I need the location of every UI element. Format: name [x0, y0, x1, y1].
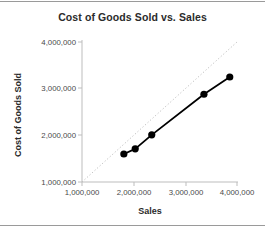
x-axis-ticks — [82, 182, 237, 186]
data-point-marker — [120, 150, 127, 157]
chart-screenshot: Cost of Goods Sold vs. Sales Cost of Goo… — [0, 0, 265, 227]
plot-canvas — [0, 0, 265, 227]
reference-line-y-equals-x — [82, 42, 237, 182]
data-point-marker — [200, 91, 207, 98]
data-point-marker — [226, 73, 233, 80]
series-line-cost-of-goods-sold — [124, 77, 230, 154]
y-axis-ticks — [78, 42, 82, 182]
scatter-chart: Cost of Goods Sold vs. Sales Cost of Goo… — [0, 0, 265, 227]
data-point-marker — [132, 145, 139, 152]
data-point-marker — [148, 131, 155, 138]
